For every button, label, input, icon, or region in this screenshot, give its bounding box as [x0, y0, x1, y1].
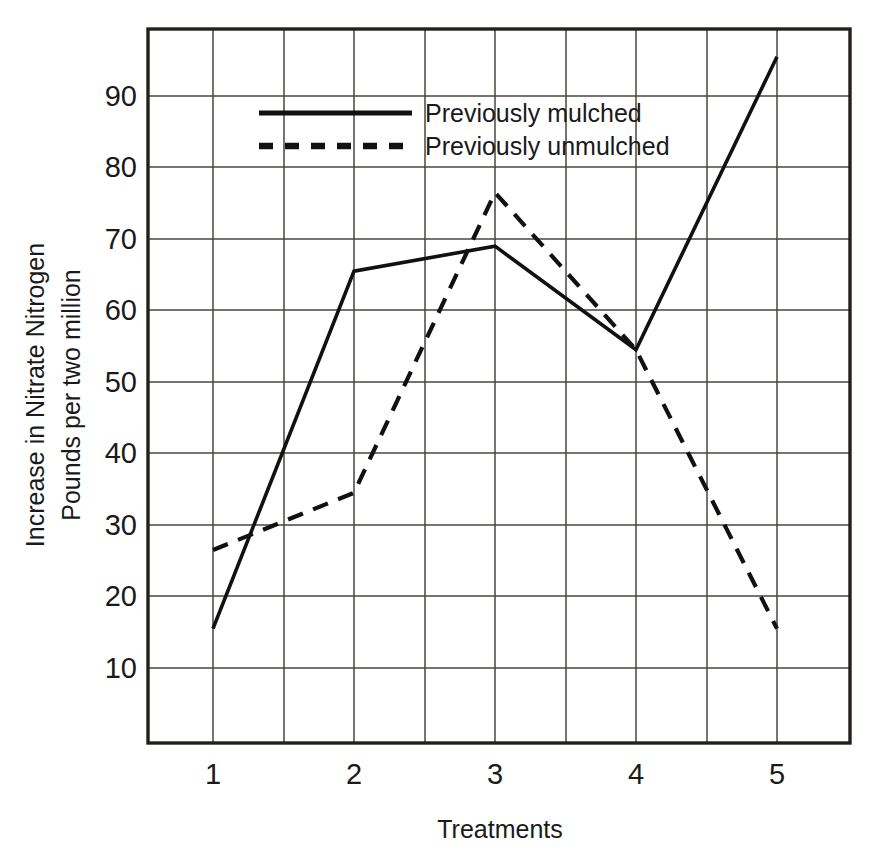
- y-tick-label-50: 50: [105, 366, 137, 398]
- y-tick-label-80: 80: [105, 151, 137, 183]
- chart-figure: 90 80 70 60 50 40 30 20 10 1 2 3 4 5 Tre…: [0, 0, 875, 861]
- x-tick-label-2: 2: [346, 758, 362, 790]
- line-chart: 90 80 70 60 50 40 30 20 10 1 2 3 4 5 Tre…: [0, 0, 875, 861]
- legend-label-previously-unmulched: Previously unmulched: [425, 132, 670, 160]
- y-tick-label-10: 10: [105, 652, 137, 684]
- y-tick-label-70: 70: [105, 223, 137, 255]
- y-axis-tick-labels: 90 80 70 60 50 40 30 20 10: [105, 80, 137, 684]
- x-axis-title: Treatments: [437, 815, 563, 843]
- legend-label-previously-mulched: Previously mulched: [425, 99, 642, 127]
- x-tick-label-3: 3: [487, 758, 503, 790]
- x-tick-label-5: 5: [769, 758, 785, 790]
- y-tick-label-30: 30: [105, 509, 137, 541]
- y-axis-title-line-2: Pounds per two million: [57, 269, 85, 521]
- y-tick-label-20: 20: [105, 580, 137, 612]
- y-tick-label-90: 90: [105, 80, 137, 112]
- y-tick-label-40: 40: [105, 437, 137, 469]
- y-axis-title-line-1: Increase in Nitrate Nitrogen: [21, 243, 49, 547]
- x-tick-label-1: 1: [205, 758, 221, 790]
- y-tick-label-60: 60: [105, 294, 137, 326]
- x-tick-label-4: 4: [628, 758, 644, 790]
